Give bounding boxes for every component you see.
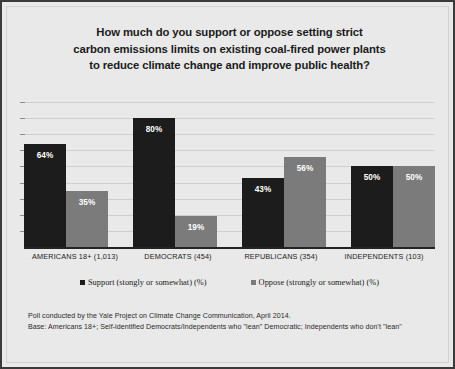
bar-group: 64%35% (24, 102, 108, 247)
legend-swatch-support-icon (80, 280, 85, 285)
legend-item-support: Support (stongly or somewhat) (%) (80, 278, 207, 287)
legend-label-oppose: Oppose (strongly or somewhat) (%) (259, 278, 379, 287)
bar: 80% (133, 118, 175, 247)
category-label-1: DEMOCRATS (454) (127, 252, 229, 261)
title-line-3: to reduce climate change and improve pub… (24, 57, 435, 74)
bar-value-label: 56% (284, 164, 326, 173)
bar-value-label: 19% (175, 223, 217, 232)
title-line-1: How much do you support or oppose settin… (24, 24, 435, 41)
bar-value-label: 50% (393, 173, 435, 182)
footnote-source: Poll conducted by the Yale Project on Cl… (28, 311, 433, 322)
category-label-0: AMERICANS 18+ (1,013) (24, 252, 126, 261)
legend-swatch-oppose-icon (251, 280, 256, 285)
category-label-2: REPUBLICANS (354) (230, 252, 332, 261)
bar-groups: 64%35%80%19%43%56%50%50% (24, 102, 435, 247)
title-line-2: carbon emissions limits on existing coal… (24, 41, 435, 58)
chart-legend: Support (stongly or somewhat) (%) Oppose… (24, 278, 435, 287)
bar-value-label: 50% (351, 173, 393, 182)
footnote-base: Base: Americans 18+; Self-identified Dem… (28, 322, 433, 333)
bar-value-label: 64% (24, 151, 66, 160)
legend-label-support: Support (stongly or somewhat) (%) (88, 278, 207, 287)
chart-title: How much do you support or oppose settin… (24, 24, 435, 74)
legend-item-oppose: Oppose (strongly or somewhat) (%) (251, 278, 379, 287)
bar: 64% (24, 144, 66, 247)
bar-group: 43%56% (242, 102, 326, 247)
chart-card: How much do you support or oppose settin… (0, 0, 455, 369)
bar-value-label: 35% (66, 198, 108, 207)
bar-group: 80%19% (133, 102, 217, 247)
bar: 50% (393, 166, 435, 247)
x-axis-line (24, 247, 435, 249)
chart-footnotes: Poll conducted by the Yale Project on Cl… (28, 311, 433, 332)
bar: 19% (175, 216, 217, 247)
category-labels: AMERICANS 18+ (1,013)DEMOCRATS (454)REPU… (24, 252, 435, 261)
bar: 43% (242, 178, 284, 247)
plot-area: 64%35%80%19%43%56%50%50% (24, 102, 435, 247)
bar: 56% (284, 157, 326, 247)
bar-value-label: 43% (242, 185, 284, 194)
bar-group: 50%50% (351, 102, 435, 247)
bar: 35% (66, 191, 108, 247)
bar: 50% (351, 166, 393, 247)
category-label-3: INDEPENDENTS (103) (333, 252, 435, 261)
bar-value-label: 80% (133, 125, 175, 134)
